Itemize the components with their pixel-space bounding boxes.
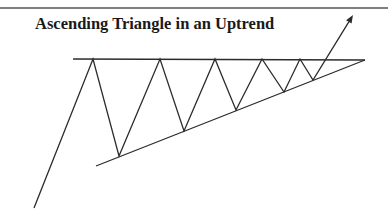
ascending-triangle-diagram: Ascending Triangle in an Uptrend [0, 0, 388, 219]
breakout-arrow-icon [346, 15, 353, 23]
support-line [96, 60, 365, 166]
resistance-line [73, 59, 365, 60]
price-path [34, 22, 349, 208]
diagram-title: Ascending Triangle in an Uptrend [35, 14, 274, 34]
